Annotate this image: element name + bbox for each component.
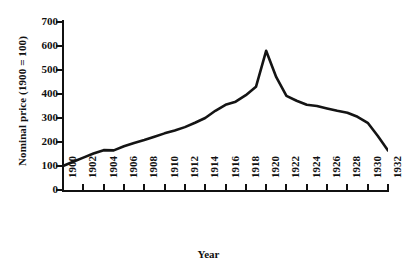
y-tick-mark	[56, 69, 63, 71]
x-axis-title: Year	[0, 248, 417, 260]
chart-container: Nominal price (1900 = 100) 0100200300400…	[0, 0, 417, 268]
plot-area	[63, 22, 388, 190]
series-line-nominal-price	[63, 51, 388, 166]
y-axis-tick-labels: 0100200300400500600700	[22, 0, 58, 268]
y-tick-mark	[56, 93, 63, 95]
y-tick-label: 400	[24, 88, 58, 99]
y-tick-label: 700	[24, 16, 58, 27]
y-tick-mark	[56, 45, 63, 47]
y-tick-mark	[56, 165, 63, 167]
y-tick-label: 500	[24, 64, 58, 75]
y-tick-mark	[56, 141, 63, 143]
y-tick-mark	[56, 21, 63, 23]
y-tick-mark	[56, 117, 63, 119]
y-tick-label: 600	[24, 40, 58, 51]
y-tick-label: 0	[24, 184, 58, 195]
x-tick-label: 1932	[392, 156, 403, 196]
y-tick-label: 300	[24, 112, 58, 123]
y-tick-label: 100	[24, 160, 58, 171]
y-tick-label: 200	[24, 136, 58, 147]
